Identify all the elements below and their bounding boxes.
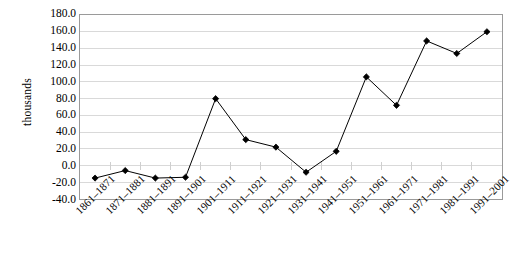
y-axis-tick-label: 180.0 [38,8,76,19]
data-point-marker[interactable] [424,38,430,44]
y-axis-tick-label: 120.0 [38,59,76,70]
data-point-marker[interactable] [92,175,98,181]
y-axis-tick-label: 100.0 [38,76,76,87]
y-axis-title: thousands [21,42,33,162]
line-chart: thousands 180.0160.0140.0120.0100.080.06… [0,0,520,278]
series-line [95,32,487,178]
y-axis-tick-label: 20.0 [38,143,76,154]
y-axis-tick-label: 40.0 [38,126,76,137]
y-axis-tick-label: 80.0 [38,93,76,104]
data-point-marker[interactable] [152,175,158,181]
data-point-marker[interactable] [122,167,128,173]
y-axis-tick-label: 140.0 [38,42,76,53]
y-axis-tick-label: 0.0 [38,160,76,171]
y-axis-tick-label: 60.0 [38,109,76,120]
data-point-marker[interactable] [182,174,188,180]
x-axis-tick-labels: 1861–18711871–18811881–18911891–19011901… [0,200,520,278]
y-axis-tick-label: -20.0 [38,177,76,188]
y-axis-tick-label: 160.0 [38,25,76,36]
plot-svg [80,15,502,199]
